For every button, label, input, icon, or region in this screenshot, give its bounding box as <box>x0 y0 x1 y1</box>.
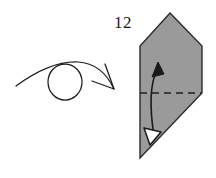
turn-over-circle-icon <box>48 64 82 100</box>
origami-diagram-canvas <box>0 0 216 178</box>
turn-over-arc-icon <box>16 62 114 89</box>
turn-over-arrowhead-icon <box>92 64 114 89</box>
turn-over-symbol <box>16 62 114 100</box>
